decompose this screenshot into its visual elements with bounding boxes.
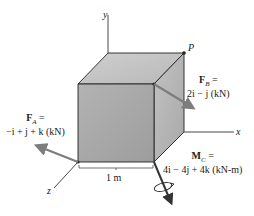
x-axis-label: x xyxy=(236,127,240,137)
point-p-label: P xyxy=(188,43,194,53)
cube-front-face xyxy=(78,84,154,162)
fa-subscript: A xyxy=(32,118,36,126)
z-axis-label: z xyxy=(47,186,51,196)
y-axis-label: y xyxy=(103,10,107,20)
fb-expression: 2i − j (kN) xyxy=(187,89,230,99)
dimension-label: 1 m xyxy=(106,173,121,183)
fa-equals: = xyxy=(39,112,45,123)
force-fa-arrow xyxy=(40,147,80,164)
mc-symbol: M xyxy=(192,150,201,161)
mc-expression: 4i − 4j + 4k (kN-m) xyxy=(163,165,242,175)
mc-equals: = xyxy=(208,150,214,161)
fb-subscript: B xyxy=(205,80,209,88)
force-fb-label: FB = 2i − j (kN) xyxy=(187,75,230,99)
cube-force-diagram xyxy=(0,0,254,216)
rotation-icon xyxy=(153,181,172,193)
dimension-bracket xyxy=(79,165,153,170)
moment-mc-label: MC = 4i − 4j + 4k (kN-m) xyxy=(163,151,242,175)
mc-subscript: C xyxy=(201,156,206,164)
force-fa-label: FA = −i + j + k (kN) xyxy=(6,113,65,137)
fa-expression: −i + j + k (kN) xyxy=(6,127,65,137)
cube xyxy=(78,53,184,162)
point-p-marker xyxy=(182,51,186,55)
z-axis xyxy=(54,162,78,188)
fb-equals: = xyxy=(212,74,218,85)
